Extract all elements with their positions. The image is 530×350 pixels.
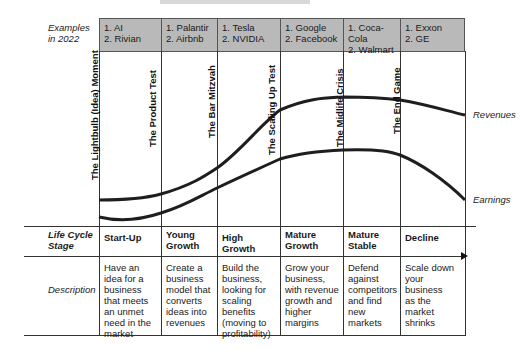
revenues-label: Revenues (473, 109, 516, 120)
description-young-growth: Create a business model that converts id… (162, 257, 218, 331)
earnings-label: Earnings (473, 194, 511, 205)
transition-bar-mitzvah: The Bar Mitzvah (206, 65, 217, 138)
earnings-curve (99, 150, 465, 220)
stage-high-growth: High Growth (218, 229, 280, 257)
transition-end-game: The End Game (391, 67, 402, 134)
description-startup: Have an idea for a business that meets a… (100, 257, 162, 342)
transition-scaling-up-test: The Scaling Up Test (266, 65, 277, 155)
description-mature-growth: Grow your business, with revenue growth … (281, 257, 344, 331)
stage-startup: Start-Up (100, 229, 161, 246)
transition-product-test: The Product Test (147, 70, 158, 147)
stage-decline: Decline (401, 229, 463, 246)
description-high-growth: Build the business, looking for scaling … (218, 257, 281, 342)
stage-mature-growth: Mature Growth (281, 226, 331, 254)
description-decline: Scale down your business as the market s… (401, 257, 459, 331)
description-mature-stable: Defend against competitors and find new … (344, 257, 401, 331)
transition-midlife-crisis: The Midlife Crisis (334, 68, 345, 147)
stage-young-growth: Young Growth (162, 226, 212, 254)
stage-mature-stable: Mature Stable (344, 226, 394, 254)
transition-lightbulb-moment: The Lightbulb (Idea) Moment (89, 50, 100, 180)
timeline-arrow-icon (461, 252, 468, 260)
